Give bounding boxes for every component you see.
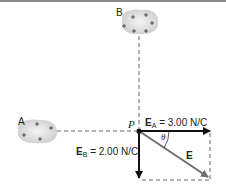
ea-subscript: A [152, 122, 157, 129]
vector-e-resultant [139, 131, 208, 177]
ea-value: = 3.00 N/C [159, 117, 207, 128]
eb-subscript: B [83, 151, 88, 158]
ea-symbol: E [145, 117, 152, 128]
charge-a-label: A [18, 117, 25, 127]
theta-label: θ [161, 133, 165, 142]
charge-b-label: B [116, 8, 123, 18]
eb-symbol: E [76, 146, 83, 157]
point-p-dot [136, 128, 141, 133]
eb-value: = 2.00 N/C [90, 146, 138, 157]
electric-field-diagram [0, 0, 226, 193]
ea-label: EA = 3.00 N/C [145, 118, 207, 129]
e-resultant-label: E [186, 151, 193, 161]
charge-b [122, 9, 159, 34]
eb-label: EB = 2.00 N/C [76, 147, 138, 158]
point-p-label: P [128, 119, 135, 130]
